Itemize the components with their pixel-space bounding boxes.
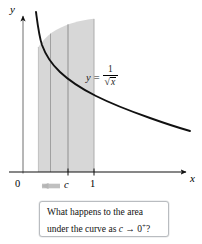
x-tick-label-one: 1 bbox=[90, 178, 95, 189]
y-axis-label: y bbox=[10, 3, 15, 15]
origin-label: 0 bbox=[15, 178, 20, 189]
caption-question-mark: ? bbox=[146, 224, 150, 234]
caption-line-2: under the curve as c → 0+? bbox=[47, 219, 162, 236]
caption-arrow-icon: → bbox=[123, 224, 137, 234]
x-tick-label-c: c bbox=[64, 179, 69, 190]
x-axis-label: x bbox=[190, 172, 195, 184]
radicand: x bbox=[110, 77, 116, 88]
caption-box: What happens to the area under the curve… bbox=[39, 201, 169, 237]
equation-denominator: √ x bbox=[103, 76, 119, 87]
equation-equals: = bbox=[93, 72, 101, 83]
figure-container: y x 0 c 1 y = 1 √ x What happens to the … bbox=[0, 0, 202, 244]
equation-numerator: 1 bbox=[105, 65, 116, 75]
radical-group: √ x bbox=[105, 77, 117, 88]
shaded-area bbox=[38, 19, 94, 172]
curve-equation-label: y = 1 √ x bbox=[86, 66, 118, 88]
caption-line-1: What happens to the area bbox=[47, 205, 162, 219]
caption-line2-text: under the curve as bbox=[47, 224, 119, 234]
equation-lhs: y bbox=[86, 72, 91, 83]
equation-fraction: 1 √ x bbox=[103, 65, 119, 87]
